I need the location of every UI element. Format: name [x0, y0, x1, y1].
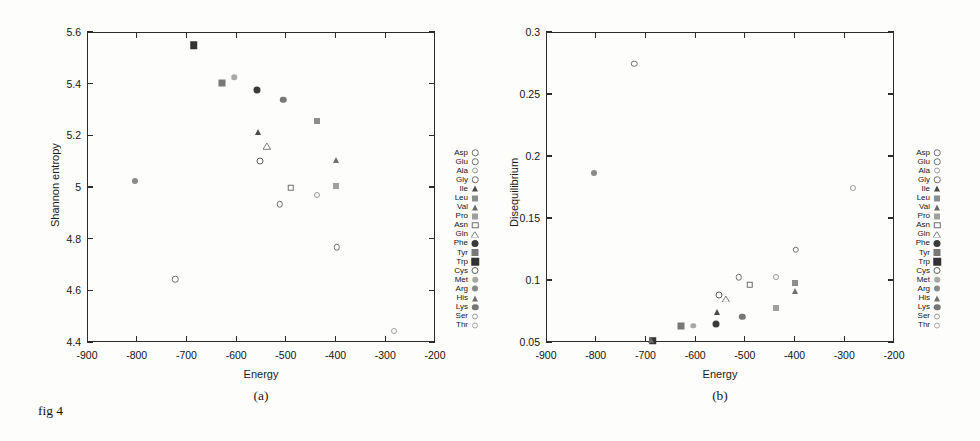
legend-symbol	[468, 321, 482, 330]
y-axis-title-a: Shannon entropy	[49, 143, 61, 227]
y-tick-label: 5.6	[66, 27, 81, 38]
x-tick-mark-top	[186, 32, 187, 38]
y-tick-label: 4.4	[66, 337, 81, 348]
legend-symbol	[930, 275, 944, 284]
data-point	[747, 282, 754, 289]
legend-label: Met	[917, 276, 930, 284]
data-point	[219, 80, 226, 87]
y-tick-mark-right	[888, 155, 894, 156]
legend-symbol	[930, 212, 944, 221]
x-tick-mark	[236, 336, 237, 342]
x-tick-mark	[285, 336, 286, 342]
legend-symbol	[468, 212, 482, 221]
panel-b: 0.30.250.20.150.10.05-900-800-700-600-50…	[490, 0, 980, 400]
legend-label: Arg	[918, 285, 930, 293]
x-tick-label: -700	[176, 350, 197, 361]
x-tick-mark-top	[844, 32, 845, 38]
legend-label: Phe	[454, 239, 468, 247]
legend-symbol	[468, 166, 482, 175]
data-point	[591, 170, 597, 176]
x-tick-label: -900	[535, 350, 556, 361]
legend-label: Cys	[454, 267, 468, 275]
y-tick-label: 4.6	[66, 285, 81, 296]
legend-label: Tyr	[919, 249, 930, 257]
x-tick-mark-top	[794, 32, 795, 38]
x-tick-mark-top	[335, 32, 336, 38]
y-tick-mark	[546, 341, 552, 342]
legend-marker-square-fill	[472, 213, 478, 219]
data-point	[257, 158, 264, 165]
legend-label: Val	[919, 203, 930, 211]
y-tick-mark-right	[888, 31, 894, 32]
y-tick-mark	[546, 217, 552, 218]
legend-symbol	[468, 175, 482, 184]
x-tick-label: -900	[76, 350, 97, 361]
legend-label: Ile	[460, 185, 468, 193]
y-tick-mark-right	[888, 279, 894, 280]
y-tick-mark	[87, 186, 93, 187]
x-tick-mark-top	[236, 32, 237, 38]
legend-label: Tyr	[457, 249, 468, 257]
legend-marker-triangle-fill	[472, 186, 478, 192]
data-point	[264, 143, 270, 149]
x-tick-label: -700	[635, 350, 656, 361]
x-tick-label: -500	[275, 350, 296, 361]
legend-marker-circle-fill	[472, 286, 478, 292]
x-tick-mark-top	[695, 32, 696, 38]
legend-symbol	[468, 303, 482, 312]
legend-marker-square-fill	[934, 213, 940, 219]
legend-label: Asp	[454, 149, 468, 157]
y-tick-mark	[87, 135, 93, 136]
legend-marker-triangle-open	[472, 231, 478, 237]
x-tick-mark	[695, 336, 696, 342]
legend-symbol	[468, 294, 482, 303]
panel-label-a: (a)	[254, 388, 269, 404]
legend-marker-circle-open	[934, 158, 941, 165]
x-tick-mark-top	[595, 32, 596, 38]
legend-marker-circle-fill	[934, 286, 940, 292]
x-tick-mark	[385, 336, 386, 342]
legend-label: Asp	[916, 149, 930, 157]
y-tick-label: 0.25	[520, 89, 540, 100]
legend-label: Gln	[918, 230, 930, 238]
legend-symbol	[930, 257, 944, 266]
data-point	[172, 276, 179, 283]
legend-label: Ile	[922, 185, 930, 193]
legend-marker-square-fill	[934, 249, 941, 256]
legend-label: Pro	[918, 212, 930, 220]
x-tick-mark	[595, 336, 596, 342]
y-tick-mark-right	[429, 186, 435, 187]
legend-marker-circle-open	[472, 177, 479, 184]
legend-label: Val	[457, 203, 468, 211]
legend-label: Ser	[456, 312, 468, 320]
x-tick-mark-top	[285, 32, 286, 38]
legend-item-thr: Thr	[440, 321, 488, 330]
legend-marker-circle-open	[472, 267, 479, 274]
legend-label: His	[918, 294, 930, 302]
x-tick-label: -400	[784, 350, 805, 361]
data-point	[773, 305, 779, 311]
y-tick-mark	[87, 31, 93, 32]
legend-label: Arg	[456, 285, 468, 293]
legend-symbol	[930, 184, 944, 193]
y-tick-mark-right	[429, 290, 435, 291]
legend-label: Met	[455, 276, 468, 284]
plot-area-a	[87, 32, 435, 342]
y-tick-mark-right	[888, 217, 894, 218]
legend-symbol	[930, 303, 944, 312]
legend-marker-square-fill	[472, 195, 478, 201]
legend-symbol	[468, 148, 482, 157]
legend-marker-triangle-fill	[472, 295, 478, 301]
legend-symbol	[468, 230, 482, 239]
legend-marker-circle-open	[472, 313, 478, 319]
legend-label: Gly	[918, 176, 930, 184]
legend-label: Phe	[916, 239, 930, 247]
legend-label: Ser	[918, 312, 930, 320]
legend-marker-square-open	[934, 222, 941, 229]
legend-label: Trp	[456, 258, 468, 266]
legend-label: Leu	[455, 194, 468, 202]
y-tick-mark-right	[888, 93, 894, 94]
x-tick-label: -500	[734, 350, 755, 361]
x-tick-label: -600	[685, 350, 706, 361]
y-tick-mark	[546, 93, 552, 94]
